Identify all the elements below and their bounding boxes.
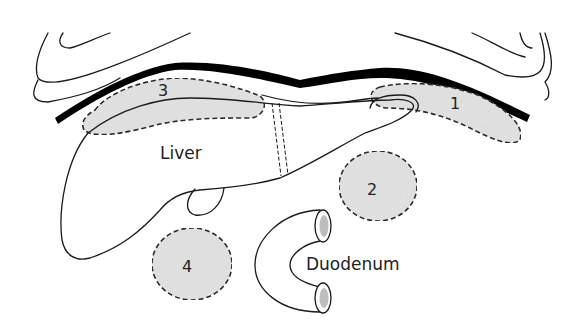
zone-4-label: 4: [182, 257, 192, 276]
falciform-ligament: [272, 103, 288, 176]
zone-2[interactable]: 2: [339, 151, 417, 221]
duodenum-label: Duodenum: [306, 254, 400, 274]
gallbladder: [188, 188, 225, 215]
diagram-canvas: 3 1 Liver 2 4 Duodenum: [0, 0, 582, 328]
zone-3-label: 3: [158, 81, 168, 100]
zone-1-label: 1: [450, 94, 460, 113]
zone-2-label: 2: [367, 180, 377, 199]
liver-label: Liver: [160, 143, 202, 163]
zone-4[interactable]: 4: [152, 228, 232, 300]
zone-1[interactable]: 1: [371, 84, 521, 143]
liver-upper-border: [262, 95, 378, 103]
